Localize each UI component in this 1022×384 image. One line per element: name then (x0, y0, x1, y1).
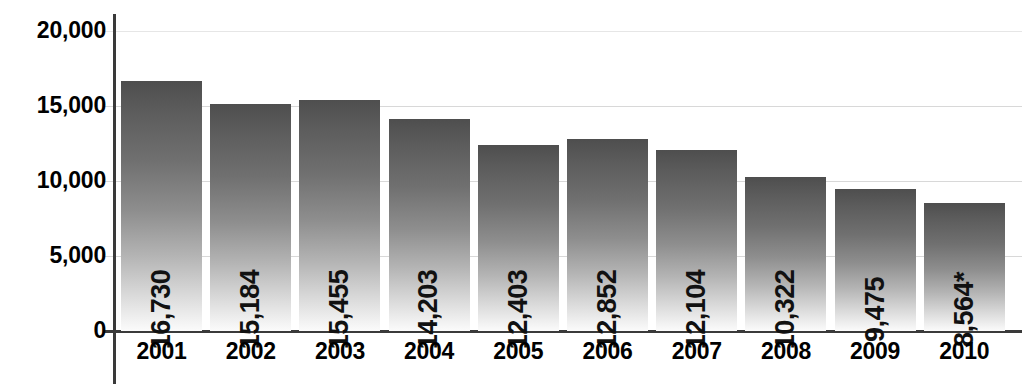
bar-2004[interactable] (389, 119, 470, 331)
bar-2007[interactable] (656, 150, 737, 331)
x-tick-label-2008: 2008 (745, 340, 826, 363)
x-tick-label-2004: 2004 (389, 340, 470, 363)
x-tick-label-2006: 2006 (567, 340, 648, 363)
bar-2001[interactable] (121, 81, 202, 331)
bar-2002[interactable] (210, 104, 291, 331)
bar-2006[interactable] (567, 139, 648, 331)
bar-2005[interactable] (478, 145, 559, 331)
x-tick-label-2003: 2003 (299, 340, 380, 363)
x-tick-label-2010: 2010 (924, 340, 1005, 363)
bars-layer: 16,730200115,184200215,455200314,2032004… (0, 0, 1022, 384)
bar-chart: 20,000 15,000 10,000 5,000 0 16,73020011… (0, 0, 1022, 384)
bar-2008[interactable] (745, 177, 826, 331)
x-tick-label-2009: 2009 (835, 340, 916, 363)
x-tick-label-2005: 2005 (478, 340, 559, 363)
x-tick-label-2007: 2007 (656, 340, 737, 363)
plot-area: 20,000 15,000 10,000 5,000 0 16,73020011… (0, 0, 1022, 384)
bar-2009[interactable] (835, 189, 916, 331)
bar-2010[interactable] (924, 203, 1005, 331)
x-tick-label-2002: 2002 (210, 340, 291, 363)
bar-2003[interactable] (299, 100, 380, 331)
x-tick-label-2001: 2001 (121, 340, 202, 363)
